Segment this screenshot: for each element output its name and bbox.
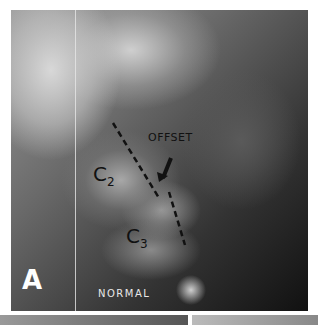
lower-dashed-line (169, 192, 185, 245)
panel-label: A (22, 265, 42, 295)
next-panel-strip-left (0, 315, 188, 325)
c2-label: C2 (93, 162, 115, 186)
annotation-overlay (11, 10, 308, 311)
caption-normal: NORMAL (98, 288, 150, 299)
offset-label: OFFSET (148, 131, 193, 144)
c3-label: C3 (126, 224, 148, 248)
next-panel-strip-right (192, 315, 318, 325)
